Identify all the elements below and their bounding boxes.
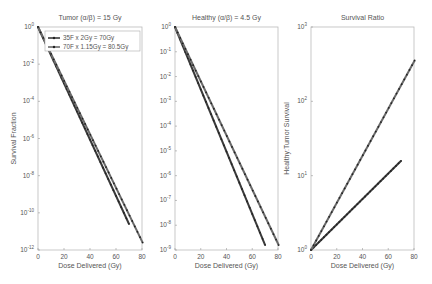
x-axis-label: Dose Delivered (Gy) (58, 262, 121, 270)
x-tick-label: 60 (385, 253, 393, 260)
x-axis-label: Dose Delivered (Gy) (195, 262, 258, 270)
y-tick-label: 10-9 (160, 245, 172, 253)
y-tick-label: 10-6 (23, 134, 35, 142)
y-tick-label: 101 (297, 171, 307, 179)
legend-entry: 35F x 2Gy = 70Gy (63, 34, 115, 42)
legend-entry: 70F x 1.15Gy = 80.5Gy (63, 43, 129, 51)
y-tick-label: 10-8 (160, 220, 172, 228)
y-tick-label: 10-10 (20, 208, 34, 216)
y-tick-label: 10-6 (160, 171, 172, 179)
y-tick-label: 102 (297, 96, 307, 104)
figure: Tumor (α/β) = 15 Gy02040608010010-210-41… (0, 0, 432, 284)
subplot-1: Tumor (α/β) = 15 Gy02040608010010-210-41… (10, 14, 146, 270)
y-tick-label: 100 (297, 245, 307, 253)
y-tick-label: 100 (24, 22, 34, 30)
subplot-title: Survival Ratio (341, 14, 384, 21)
subplot-title: Tumor (α/β) = 15 Gy (58, 14, 122, 22)
y-tick-label: 103 (297, 22, 307, 30)
x-tick-label: 20 (197, 253, 205, 260)
y-tick-label: 10-5 (160, 146, 172, 154)
x-tick-label: 80 (274, 253, 282, 260)
y-tick-label: 10-1 (160, 47, 172, 55)
subplot-2: Healthy (α/β) = 4.5 Gy02040608010010-110… (160, 14, 282, 270)
plot-area (311, 27, 414, 250)
x-tick-label: 40 (359, 253, 367, 260)
x-tick-label: 0 (173, 253, 177, 260)
x-tick-label: 40 (223, 253, 231, 260)
x-tick-label: 20 (60, 253, 68, 260)
y-tick-label: 100 (161, 22, 171, 30)
x-tick-label: 0 (309, 253, 313, 260)
y-tick-label: 10-2 (160, 72, 172, 80)
y-tick-label: 10-4 (160, 121, 172, 129)
y-tick-label: 10-12 (20, 245, 34, 253)
legend: 35F x 2Gy = 70Gy70F x 1.15Gy = 80.5Gy (45, 31, 140, 51)
y-axis-label: Healthy:Tumor Survival (283, 102, 291, 175)
y-tick-label: 10-7 (160, 195, 172, 203)
y-axis-label: Survival Fraction (10, 112, 17, 164)
x-tick-label: 80 (138, 253, 146, 260)
x-tick-label: 60 (112, 253, 120, 260)
x-tick-label: 60 (249, 253, 257, 260)
y-tick-label: 10-8 (23, 171, 35, 179)
y-tick-label: 10-3 (160, 96, 172, 104)
x-tick-label: 40 (86, 253, 94, 260)
subplot-3: Survival Ratio020406080100101102103Dose … (283, 14, 418, 270)
subplot-title: Healthy (α/β) = 4.5 Gy (192, 14, 261, 22)
y-tick-label: 10-2 (23, 59, 35, 67)
x-tick-label: 0 (36, 253, 40, 260)
y-tick-label: 10-4 (23, 96, 35, 104)
x-tick-label: 80 (410, 253, 418, 260)
x-tick-label: 20 (333, 253, 341, 260)
x-axis-label: Dose Delivered (Gy) (331, 262, 394, 270)
